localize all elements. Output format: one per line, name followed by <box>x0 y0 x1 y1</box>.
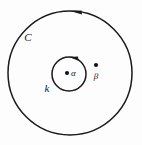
outer-contour-arrow-icon <box>70 11 82 15</box>
inner-contour-label: k <box>45 82 51 94</box>
outer-contour-circle <box>8 11 132 135</box>
beta-point-label: β <box>93 71 99 81</box>
beta-point-dot <box>94 63 98 67</box>
alpha-point-dot <box>65 71 69 75</box>
contour-figure: C k α β <box>0 0 142 145</box>
inner-contour-circle <box>52 57 86 91</box>
outer-contour-label: C <box>24 31 32 43</box>
inner-contour-arrow-icon <box>69 56 79 60</box>
alpha-point-label: α <box>71 68 76 78</box>
figure-canvas: C k α β <box>0 0 142 145</box>
